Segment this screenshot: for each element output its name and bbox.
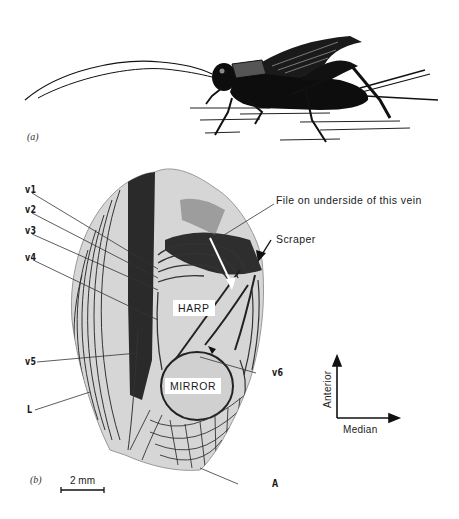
file-callout: File on underside of this vein bbox=[276, 194, 422, 206]
vein-label-v1: v1 bbox=[25, 183, 36, 196]
vein-label-v2: v2 bbox=[25, 203, 36, 216]
vein-label-a: A bbox=[272, 477, 279, 490]
scale-bar-label: 2 mm bbox=[70, 475, 95, 486]
anterior-label: Anterior bbox=[322, 371, 333, 408]
median-label: Median bbox=[343, 424, 378, 435]
harp-label: HARP bbox=[173, 300, 215, 316]
forewing-photo bbox=[0, 0, 459, 519]
panel-b-label: (b) bbox=[30, 474, 42, 485]
vein-label-v6: v6 bbox=[272, 366, 283, 379]
mirror-label: MIRROR bbox=[165, 378, 221, 394]
vein-label-v5: v5 bbox=[25, 355, 36, 368]
vein-label-v4: v4 bbox=[25, 251, 36, 264]
vein-label-l: L bbox=[27, 403, 32, 416]
vein-label-v3: v3 bbox=[25, 224, 36, 237]
scraper-callout: Scraper bbox=[276, 233, 316, 245]
